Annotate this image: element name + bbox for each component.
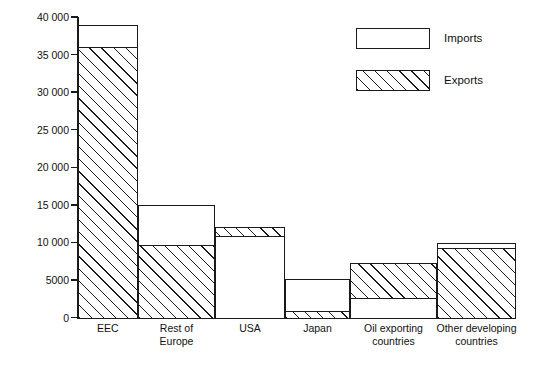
y-tick: 15 000 xyxy=(0,205,69,206)
y-tick-label: 5000 xyxy=(46,275,69,286)
legend-label: Exports xyxy=(444,74,483,86)
y-tick: 20 000 xyxy=(0,167,69,168)
y-tick: 10 000 xyxy=(0,242,69,243)
x-axis-label: Other developing countries xyxy=(415,322,538,347)
y-tick: 0 xyxy=(0,318,69,319)
legend-swatch-imports xyxy=(356,28,430,49)
legend-label: Imports xyxy=(444,32,482,44)
y-tick: 35 000 xyxy=(0,55,69,56)
y-tick-label: 30 000 xyxy=(37,87,69,98)
y-tick: 30 000 xyxy=(0,92,69,93)
y-tick-label: 25 000 xyxy=(37,125,69,136)
plot-area: 0500010 00015 00020 00025 00030 00035 00… xyxy=(0,0,546,369)
legend-swatch-exports xyxy=(356,70,430,91)
y-tick-label: 15 000 xyxy=(37,200,69,211)
bar-exports xyxy=(78,47,138,319)
y-tick-mark xyxy=(71,16,78,17)
bar-exports xyxy=(138,245,215,319)
y-tick: 5000 xyxy=(0,280,69,281)
bar-imports xyxy=(350,298,437,319)
bar-imports xyxy=(215,236,285,319)
bar-exports xyxy=(437,248,516,319)
y-tick-label: 20 000 xyxy=(37,162,69,173)
y-tick: 40 000 xyxy=(0,17,69,18)
bar-exports xyxy=(285,311,350,319)
chart-figure: 0500010 00015 00020 00025 00030 00035 00… xyxy=(0,0,546,369)
y-tick-label: 10 000 xyxy=(37,237,69,248)
y-tick: 25 000 xyxy=(0,130,69,131)
y-tick-label: 35 000 xyxy=(37,50,69,61)
y-tick-label: 40 000 xyxy=(37,12,69,23)
